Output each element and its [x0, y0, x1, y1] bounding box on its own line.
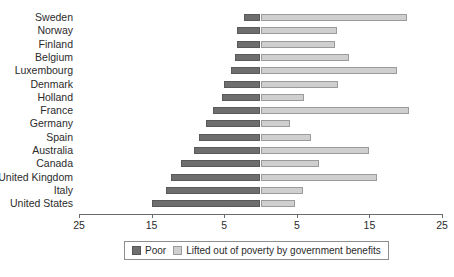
legend-item-lifted: Lifted out of poverty by government bene… — [173, 245, 381, 256]
bar-segment-poor — [213, 107, 260, 114]
category-label: Canada — [36, 157, 73, 170]
legend-item-poor: Poor — [132, 245, 166, 256]
bar-segment-poor — [206, 120, 260, 127]
bar-segment-lifted — [261, 147, 370, 154]
axis-tick — [297, 214, 298, 218]
axis-tick-label: 5 — [294, 219, 300, 231]
axis-tick-label: 15 — [364, 219, 376, 231]
bar-segment-poor — [181, 160, 261, 167]
bar-segment-poor — [231, 67, 260, 74]
bar-segment-lifted — [261, 94, 305, 101]
axis-tick-label: 15 — [146, 219, 158, 231]
bar-segment-lifted — [261, 187, 303, 194]
bar-row — [79, 197, 442, 210]
plot-area — [79, 11, 442, 214]
bar-segment-poor — [222, 94, 260, 101]
bar-row — [79, 131, 442, 144]
bar-segment-poor — [224, 81, 260, 88]
bar-segment-poor — [171, 174, 260, 181]
axis-tick-label: 5 — [221, 219, 227, 231]
bar-segment-lifted — [261, 134, 312, 141]
bar-segment-lifted — [261, 41, 336, 48]
bar-segment-poor — [152, 200, 261, 207]
category-label: France — [40, 104, 73, 117]
bar-segment-poor — [237, 27, 260, 34]
category-label: Germany — [30, 117, 73, 130]
legend-label-poor: Poor — [145, 245, 166, 256]
axis-tick-label: 25 — [436, 219, 448, 231]
axis-tick — [369, 214, 370, 218]
legend-swatch-poor-icon — [132, 246, 141, 255]
value-axis-line — [79, 214, 442, 215]
bar-row — [79, 144, 442, 157]
bar-row — [79, 157, 442, 170]
bar-segment-lifted — [261, 14, 408, 21]
bar-row — [79, 11, 442, 24]
category-label: Finland — [39, 38, 73, 51]
bar-segment-lifted — [261, 174, 377, 181]
category-label: Belgium — [35, 51, 73, 64]
bar-segment-lifted — [261, 160, 319, 167]
bar-segment-lifted — [261, 120, 290, 127]
bar-segment-poor — [235, 54, 260, 61]
bar-segment-lifted — [261, 107, 409, 114]
category-label: Luxembourg — [15, 64, 73, 77]
legend-swatch-lifted-icon — [173, 246, 182, 255]
bar-segment-lifted — [261, 67, 397, 74]
axis-tick-label: 25 — [73, 219, 85, 231]
bar-segment-poor — [244, 14, 261, 21]
category-label: Australia — [32, 144, 73, 157]
bar-row — [79, 24, 442, 37]
axis-tick — [224, 214, 225, 218]
bar-segment-lifted — [261, 81, 339, 88]
bar-row — [79, 38, 442, 51]
bar-row — [79, 51, 442, 64]
bar-segment-poor — [199, 134, 261, 141]
category-label: Italy — [54, 184, 73, 197]
category-label: United Kingdom — [0, 171, 73, 184]
bar-segment-lifted — [261, 200, 295, 207]
poverty-diverging-bar-chart: SwedenNorwayFinlandBelgiumLuxembourgDenm… — [0, 0, 454, 277]
category-label: Denmark — [30, 78, 73, 91]
category-label: Norway — [37, 24, 73, 37]
axis-tick — [152, 214, 153, 218]
bar-segment-poor — [237, 41, 261, 48]
legend-label-lifted: Lifted out of poverty by government bene… — [186, 245, 381, 256]
bar-row — [79, 78, 442, 91]
bar-row — [79, 91, 442, 104]
chart-legend: Poor Lifted out of poverty by government… — [124, 241, 389, 260]
bar-segment-poor — [194, 147, 261, 154]
axis-tick — [442, 214, 443, 218]
bar-row — [79, 184, 442, 197]
bar-segment-lifted — [261, 27, 337, 34]
bar-row — [79, 171, 442, 184]
bar-row — [79, 117, 442, 130]
category-label: Holland — [37, 91, 73, 104]
category-label: Spain — [46, 131, 73, 144]
category-label: Sweden — [35, 11, 73, 24]
category-axis-labels: SwedenNorwayFinlandBelgiumLuxembourgDenm… — [0, 11, 76, 214]
bar-row — [79, 64, 442, 77]
category-label: United States — [10, 197, 73, 210]
bar-segment-poor — [166, 187, 260, 194]
bar-segment-lifted — [261, 54, 350, 61]
bar-row — [79, 104, 442, 117]
axis-tick — [79, 214, 80, 218]
